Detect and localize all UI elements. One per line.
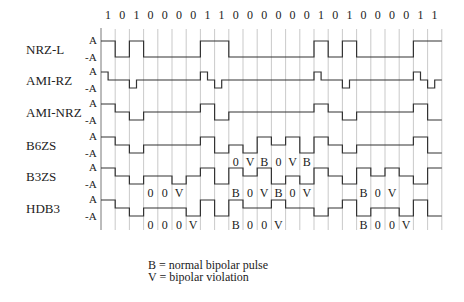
substitution-symbol: V xyxy=(243,155,257,170)
bit-label: 1 xyxy=(129,8,143,23)
bit-label: 0 xyxy=(385,8,399,23)
waveform-b3zs xyxy=(101,168,442,184)
legend-v: V = bipolar violation xyxy=(148,271,249,283)
substitution-symbol: B xyxy=(357,218,371,233)
substitution-symbol: 0 xyxy=(144,218,158,233)
waveform-diagram xyxy=(0,0,464,302)
substitution-symbol: V xyxy=(385,186,399,201)
bit-label: 1 xyxy=(314,8,328,23)
bit-label: 0 xyxy=(328,8,342,23)
amplitude-label: A xyxy=(89,66,97,77)
amplitude-label: -A xyxy=(85,52,97,63)
bit-label: 0 xyxy=(115,8,129,23)
substitution-symbol: 0 xyxy=(158,186,172,201)
substitution-symbol: 0 xyxy=(271,155,285,170)
substitution-symbol: 0 xyxy=(286,186,300,201)
amplitude-label: -A xyxy=(85,83,97,94)
amplitude-label: -A xyxy=(85,179,97,190)
bit-label: 0 xyxy=(371,8,385,23)
substitution-symbol: 0 xyxy=(172,218,186,233)
amplitude-label: -A xyxy=(85,211,97,222)
amplitude-label: A xyxy=(89,194,97,205)
substitution-symbol: V xyxy=(399,218,413,233)
substitution-symbol: 0 xyxy=(371,186,385,201)
substitution-symbol: 0 xyxy=(144,186,158,201)
amplitude-label: A xyxy=(89,162,97,173)
bit-label: 1 xyxy=(413,8,427,23)
substitution-symbol: B xyxy=(257,155,271,170)
bit-label: 0 xyxy=(271,8,285,23)
substitution-symbol: 0 xyxy=(158,218,172,233)
substitution-symbol: B xyxy=(300,155,314,170)
bit-label: 0 xyxy=(186,8,200,23)
row-label: HDB3 xyxy=(26,202,60,215)
substitution-symbol: V xyxy=(186,218,200,233)
substitution-symbol: 0 xyxy=(257,218,271,233)
row-label: AMI-RZ xyxy=(26,74,72,87)
bit-label: 0 xyxy=(300,8,314,23)
substitution-symbol: 0 xyxy=(385,218,399,233)
bit-label: 1 xyxy=(215,8,229,23)
substitution-symbol: B xyxy=(229,218,243,233)
bit-label: 0 xyxy=(286,8,300,23)
row-label: NRZ-L xyxy=(26,43,64,56)
substitution-symbol: 0 xyxy=(243,186,257,201)
substitution-symbol: B xyxy=(271,186,285,201)
amplitude-label: -A xyxy=(85,115,97,126)
bit-label: 1 xyxy=(428,8,442,23)
bit-label: 0 xyxy=(357,8,371,23)
bit-label: 0 xyxy=(158,8,172,23)
bit-label: 1 xyxy=(342,8,356,23)
bit-label: 0 xyxy=(399,8,413,23)
substitution-symbol: 0 xyxy=(243,218,257,233)
substitution-symbol: V xyxy=(300,186,314,201)
bit-label: 0 xyxy=(243,8,257,23)
substitution-symbol: V xyxy=(172,186,186,201)
amplitude-label: A xyxy=(89,98,97,109)
substitution-symbol: V xyxy=(286,155,300,170)
bit-label: 0 xyxy=(172,8,186,23)
bit-label: 1 xyxy=(200,8,214,23)
amplitude-label: A xyxy=(89,131,97,142)
row-label: AMI-NRZ xyxy=(26,106,82,119)
bit-label: 0 xyxy=(229,8,243,23)
amplitude-label: -A xyxy=(85,148,97,159)
substitution-symbol: 0 xyxy=(371,218,385,233)
row-label: B6ZS xyxy=(26,139,56,152)
bit-label: 0 xyxy=(144,8,158,23)
bit-label: 0 xyxy=(257,8,271,23)
row-label: B3ZS xyxy=(26,170,56,183)
substitution-symbol: 0 xyxy=(229,155,243,170)
substitution-symbol: V xyxy=(271,218,285,233)
substitution-symbol: B xyxy=(229,186,243,201)
substitution-symbol: V xyxy=(257,186,271,201)
amplitude-label: A xyxy=(89,35,97,46)
bit-label: 1 xyxy=(101,8,115,23)
substitution-symbol: B xyxy=(357,186,371,201)
